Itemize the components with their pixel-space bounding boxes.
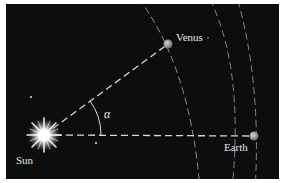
earth-orbit-inner [205,0,235,183]
star [95,142,97,144]
sun-venus-line [44,44,168,135]
venus-orbit [132,0,200,183]
venus-icon [164,40,173,49]
venus-label: Venus [176,32,203,43]
venus-elongation-diagram [0,0,284,183]
star [30,96,32,98]
earth-label: Earth [224,142,248,153]
angle-arc [90,101,101,135]
sun-earth-line [44,135,254,136]
angle-alpha-label: α [104,108,110,120]
sun-label: Sun [16,155,33,166]
sun-icon [27,118,61,152]
earth-orbit [235,0,256,183]
star [207,37,208,38]
earth-icon [250,132,259,141]
